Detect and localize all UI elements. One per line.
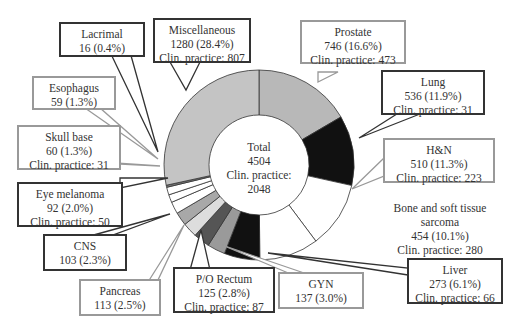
callout-gyn: GYN 137 (3.0%) [278, 272, 364, 309]
callout-eye-name: Eye melanoma [19, 187, 121, 201]
callout-liver-name: Liver [409, 263, 501, 277]
callout-gyn-name: GYN [280, 277, 362, 291]
callout-skull-cp: Clin. practice: 31 [19, 158, 119, 172]
label-bone-name1: Bone and soft tissue [384, 201, 496, 215]
callout-po-rectum: P/O Rectum 125 (2.8%) Clin. practice: 87 [173, 267, 275, 313]
callout-lung-cp: Clin. practice: 31 [383, 103, 483, 117]
callout-cns-value: 103 (2.3%) [45, 253, 125, 267]
callout-cns-name: CNS [45, 239, 125, 253]
callout-gyn-value: 137 (3.0%) [280, 291, 362, 305]
callout-lung-name: Lung [383, 75, 483, 89]
callout-esophagus-value: 59 (1.3%) [34, 95, 114, 109]
callout-rectum-cp: Clin. practice: 87 [175, 300, 273, 314]
donut-center-label: Total 4504 Clin. practice: 2048 [214, 140, 304, 196]
callout-liver-cp: Clin. practice: 66 [409, 291, 501, 305]
callout-eye-melanoma: Eye melanoma 92 (2.0%) Clin. practice: 5… [17, 182, 123, 227]
callout-skull-base: Skull base 60 (1.3%) Clin. practice: 31 [17, 125, 121, 170]
callout-prostate-value: 746 (16.6%) [302, 39, 404, 53]
callout-eye-value: 92 (2.0%) [19, 201, 121, 215]
label-bone-sarcoma: Bone and soft tissue sarcoma 454 (10.1%)… [384, 198, 496, 258]
callout-misc-cp: Clin. practice: 807 [155, 51, 249, 65]
callout-hn: H&N 510 (11.3%) Clin. practice: 223 [383, 138, 495, 183]
callout-pancreas-name: Pancreas [81, 284, 159, 298]
callout-misc-value: 1280 (28.4%) [155, 37, 249, 51]
callout-eye-cp: Clin. practice: 50 [19, 215, 121, 229]
callout-skull-name: Skull base [19, 130, 119, 144]
label-bone-name2: sarcoma [384, 215, 496, 229]
callout-cns: CNS 103 (2.3%) [43, 234, 127, 271]
callout-hn-name: H&N [385, 143, 493, 157]
callout-miscellaneous: Miscellaneous 1280 (28.4%) Clin. practic… [153, 18, 251, 63]
center-cp-label: Clin. practice: [214, 168, 304, 182]
callout-prostate: Prostate 746 (16.6%) Clin. practice: 473 [300, 20, 406, 64]
center-cp-value: 2048 [214, 182, 304, 196]
callout-prostate-name: Prostate [302, 25, 404, 39]
callout-rectum-name: P/O Rectum [175, 272, 273, 286]
callout-rectum-value: 125 (2.8%) [175, 286, 273, 300]
callout-lacrimal: Lacrimal 16 (0.4%) [59, 22, 145, 57]
callout-lacrimal-name: Lacrimal [61, 27, 143, 41]
callout-lacrimal-value: 16 (0.4%) [61, 41, 143, 55]
label-bone-value: 454 (10.1%) [384, 229, 496, 243]
center-total-value: 4504 [214, 154, 304, 168]
callout-hn-value: 510 (11.3%) [385, 157, 493, 171]
callout-pancreas: Pancreas 113 (2.5%) [79, 279, 161, 316]
callout-lung: Lung 536 (11.9%) Clin. practice: 31 [381, 70, 485, 115]
callout-misc-name: Miscellaneous [155, 23, 249, 37]
callout-skull-value: 60 (1.3%) [19, 144, 119, 158]
callout-liver-value: 273 (6.1%) [409, 277, 501, 291]
callout-liver: Liver 273 (6.1%) Clin. practice: 66 [407, 258, 503, 304]
callout-prostate-cp: Clin. practice: 473 [302, 53, 404, 67]
callout-lung-value: 536 (11.9%) [383, 89, 483, 103]
callout-esophagus: Esophagus 59 (1.3%) [32, 76, 116, 110]
center-total-label: Total [214, 140, 304, 154]
label-bone-cp: Clin. practice: 280 [384, 243, 496, 257]
callout-hn-cp: Clin. practice: 223 [385, 171, 493, 185]
callout-pancreas-value: 113 (2.5%) [81, 298, 159, 312]
callout-esophagus-name: Esophagus [34, 81, 114, 95]
